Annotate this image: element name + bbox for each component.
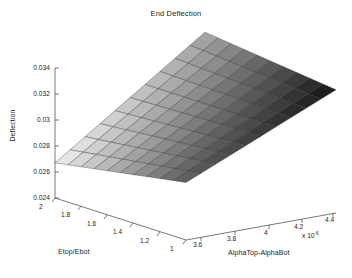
y-axis-exponent: x 10-6	[302, 231, 319, 239]
y-tick-label: 3.8	[227, 235, 236, 242]
surface-mesh	[55, 32, 336, 182]
z-tick-label: 0.024	[6, 194, 50, 201]
exponent-power: -6	[314, 231, 318, 236]
z-tick-marks	[55, 68, 59, 198]
matlab-figure-window: End Deflection	[0, 0, 352, 278]
surface-plot-canvas	[0, 0, 352, 278]
y-tick-label: 4	[264, 229, 268, 236]
z-axis-label: Deflection	[9, 96, 16, 156]
x-tick-label: 2	[39, 203, 43, 210]
y-tick-label: 4.2	[294, 223, 303, 230]
exponent-base: x 10	[302, 232, 314, 239]
y-axis-label: AlphaTop-AlphaBot	[228, 249, 290, 256]
x-tick-label: 1.2	[140, 237, 149, 244]
x-tick-label: 1.8	[61, 211, 70, 218]
z-tick-label: 0.034	[6, 64, 50, 71]
x-axis-label: Etop/Ebot	[58, 248, 90, 255]
x-tick-label: 1	[170, 245, 174, 252]
x-tick-label: 1.4	[113, 228, 122, 235]
z-tick-label: 0.026	[6, 168, 50, 175]
x-tick-label: 1.6	[87, 220, 96, 227]
y-tick-label: 3.6	[193, 241, 202, 248]
y-tick-label: 4.4	[325, 216, 334, 223]
x-tick-marks	[52, 198, 186, 244]
